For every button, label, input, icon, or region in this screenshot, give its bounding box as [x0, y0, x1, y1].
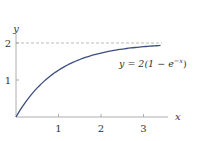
equation-exponent: −x [174, 57, 183, 65]
y-axis-label: y [12, 23, 19, 34]
x-tick-label-3: 3 [140, 123, 146, 134]
y-tick-label-2: 2 [5, 38, 11, 49]
x-tick-label-2: 2 [98, 123, 104, 134]
x-axis-label: x [175, 111, 181, 122]
equation-rhs: ) [183, 58, 187, 69]
curve-series [16, 45, 161, 117]
equation-lhs: y = 2(1 − e [118, 58, 174, 69]
x-tick-label-1: 1 [55, 123, 61, 134]
chart: 1 2 3 1 2 x y y = 2(1 − e−x) [0, 0, 200, 141]
equation-label: y = 2(1 − e−x) [118, 57, 187, 69]
y-tick-label-1: 1 [5, 75, 11, 86]
